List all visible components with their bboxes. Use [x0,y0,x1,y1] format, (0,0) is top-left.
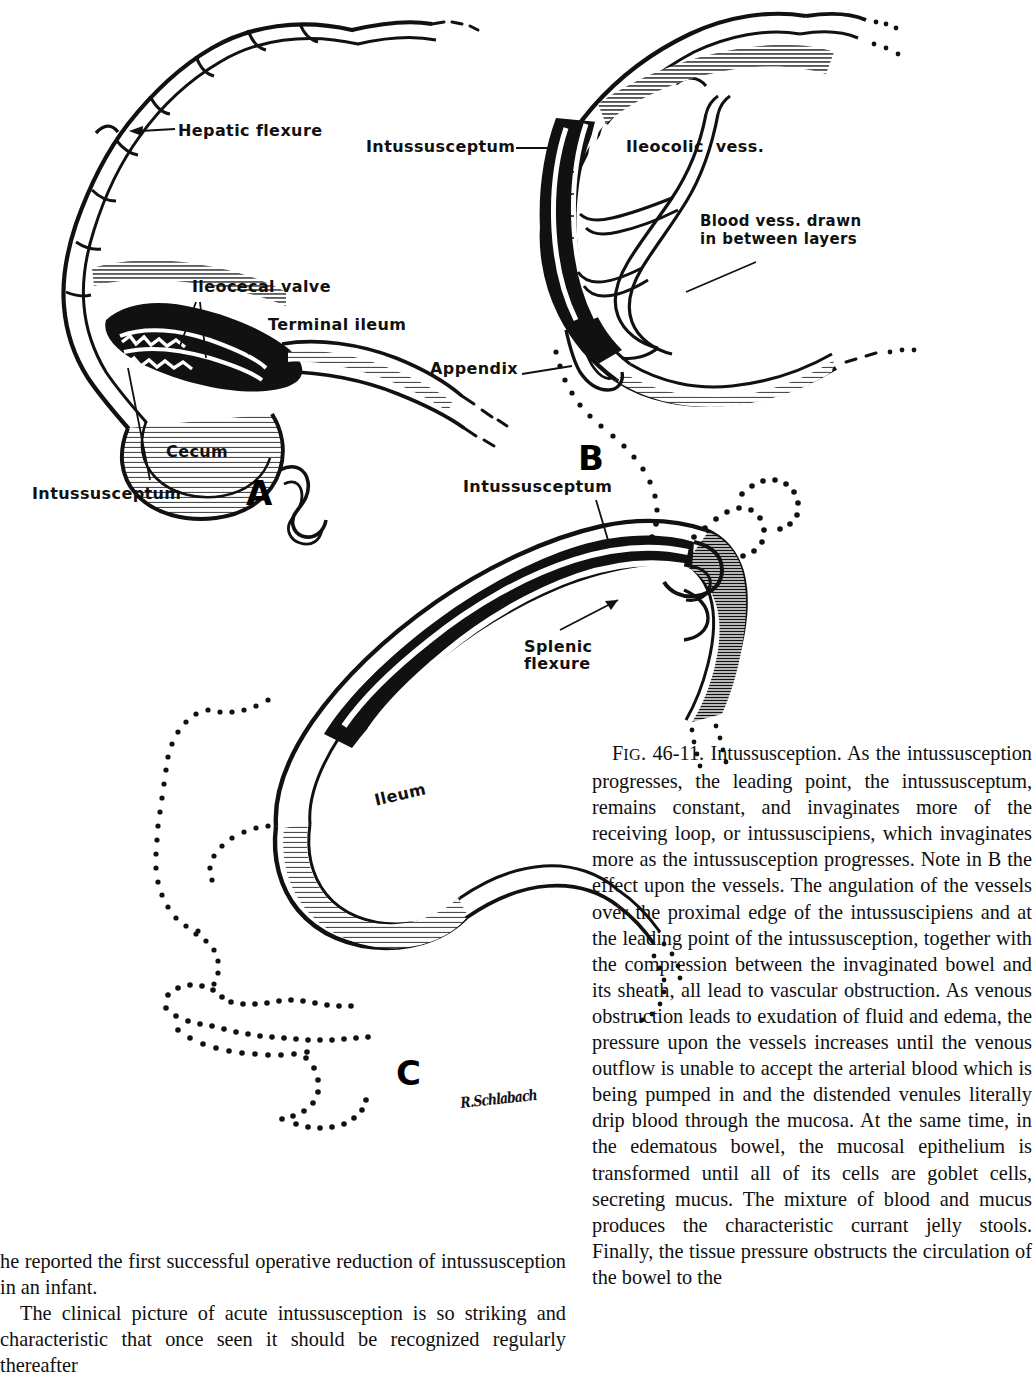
body-paragraph-new: The clinical picture of acute intussusce… [0,1300,566,1378]
panel-letter-a: A [246,473,272,513]
body-text-column: he reported the first successful operati… [0,1248,566,1378]
label-cecum: Cecum [166,443,228,460]
label-splenic-flexure-line2: flexure [524,655,591,672]
panel-letter-c: C [396,1053,421,1093]
figure-caption: FIG. 46-11. Intussusception. As the intu… [592,740,1032,1290]
label-appendix: Appendix [430,360,518,377]
label-splenic-flexure-line1: Splenic [524,638,592,655]
caption-title: Intussusception. [710,742,841,764]
caption-fig-number: . 46-11. [641,742,710,764]
label-ileocolic-vess: Ileocolic vess. [626,138,764,155]
label-ileocecal-valve: Ileocecal valve [192,278,331,295]
label-blood-vess-drawn-line2: in between layers [700,231,857,247]
label-intussusceptum-a: Intussusceptum [32,485,181,502]
label-hepatic-flexure: Hepatic flexure [178,122,322,139]
label-blood-vess-drawn-line1: Blood vess. drawn [700,213,861,229]
caption-fig-smallcaps: IG [623,745,641,764]
label-intussusceptum-b: Intussusceptum [366,138,515,155]
caption-paragraph: FIG. 46-11. Intussusception. As the intu… [592,740,1032,1290]
label-terminal-ileum: Terminal ileum [268,316,406,333]
page-canvas: Hepatic flexure Ileocecal valve Terminal… [0,0,1033,1387]
body-paragraph-continued: he reported the first successful operati… [0,1248,566,1300]
caption-fig-prefix: F [612,742,623,764]
panel-letter-b: B [578,438,604,478]
caption-body: As the intussusception progresses, the l… [592,742,1032,1288]
label-intussusceptum-c: Intussusceptum [463,478,612,495]
